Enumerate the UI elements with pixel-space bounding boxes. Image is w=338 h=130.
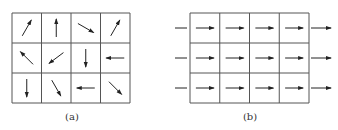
- panel-a-caption: (a): [52, 111, 92, 122]
- arrow-northeast-icon: [111, 20, 120, 36]
- panel-b-grid: [175, 13, 331, 103]
- arrow-northeast-icon: [22, 20, 31, 36]
- arrow-southeast-icon: [109, 82, 122, 95]
- arrow-northwest-icon: [20, 52, 33, 65]
- panel-b-caption: (b): [230, 111, 270, 122]
- arrow-southeast-shallow-icon: [78, 24, 94, 33]
- panel-a-grid: [12, 13, 130, 103]
- arrow-southeast-steep-icon: [52, 80, 61, 96]
- arrow-southwest-icon: [49, 53, 63, 64]
- diagram-canvas: [0, 0, 338, 130]
